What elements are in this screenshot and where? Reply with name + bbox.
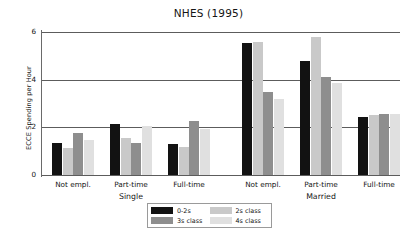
bar bbox=[300, 61, 310, 175]
gridline-y-0 bbox=[42, 175, 400, 176]
x-group-label: Single bbox=[91, 192, 171, 201]
legend-item[interactable]: 0-2s bbox=[151, 207, 210, 215]
bar bbox=[358, 117, 368, 175]
legend-row: 0-2s2s class bbox=[151, 206, 268, 215]
bar bbox=[52, 143, 62, 175]
bar bbox=[390, 114, 400, 175]
x-tick-label: Full-time bbox=[344, 180, 414, 189]
gridline-y-2 bbox=[42, 127, 400, 128]
y-tick-label-4: 4 bbox=[18, 76, 36, 83]
x-group-label: Married bbox=[281, 192, 361, 201]
bar bbox=[142, 126, 152, 175]
legend-label: 4s class bbox=[236, 217, 261, 225]
bar bbox=[110, 124, 120, 175]
bar bbox=[311, 37, 321, 175]
bar bbox=[242, 43, 252, 175]
y-tick-label-6: 6 bbox=[18, 28, 36, 35]
bar bbox=[84, 140, 94, 175]
legend-label: 3s class bbox=[177, 217, 202, 225]
bar bbox=[168, 144, 178, 175]
legend-swatch-icon bbox=[210, 207, 232, 214]
y-tick-label-0: 0 bbox=[18, 171, 36, 178]
bar bbox=[274, 99, 284, 175]
bar bbox=[379, 114, 389, 175]
legend-label: 2s class bbox=[236, 207, 261, 215]
chart-figure: NHES (1995) ECCE Spending per Hour 0246 … bbox=[0, 0, 417, 238]
gridline-y-6 bbox=[42, 32, 400, 33]
legend-label: 0-2s bbox=[177, 207, 191, 215]
chart-title: NHES (1995) bbox=[0, 7, 417, 19]
bar bbox=[189, 121, 199, 175]
legend-swatch-icon bbox=[151, 207, 173, 214]
legend: 0-2s2s class3s class4s class bbox=[147, 203, 272, 228]
bar bbox=[63, 148, 73, 175]
legend-swatch-icon bbox=[210, 217, 232, 224]
y-tick-label-2: 2 bbox=[18, 123, 36, 130]
bar bbox=[73, 133, 83, 175]
gridline-y-4 bbox=[42, 80, 400, 81]
bar bbox=[332, 83, 342, 175]
legend-row: 3s class4s class bbox=[151, 216, 268, 225]
plot-area bbox=[42, 32, 400, 175]
legend-item[interactable]: 3s class bbox=[151, 217, 210, 225]
bar bbox=[253, 42, 263, 175]
y-axis-tick-labels: 0246 bbox=[16, 0, 40, 238]
bar bbox=[200, 129, 210, 175]
legend-swatch-icon bbox=[151, 217, 173, 224]
bar bbox=[263, 92, 273, 175]
bar bbox=[179, 147, 189, 175]
x-tick-label: Full-time bbox=[154, 180, 224, 189]
legend-item[interactable]: 4s class bbox=[210, 217, 269, 225]
legend-item[interactable]: 2s class bbox=[210, 207, 269, 215]
bar bbox=[131, 143, 141, 175]
bar bbox=[369, 115, 379, 175]
bar bbox=[321, 77, 331, 175]
bar bbox=[121, 138, 131, 175]
